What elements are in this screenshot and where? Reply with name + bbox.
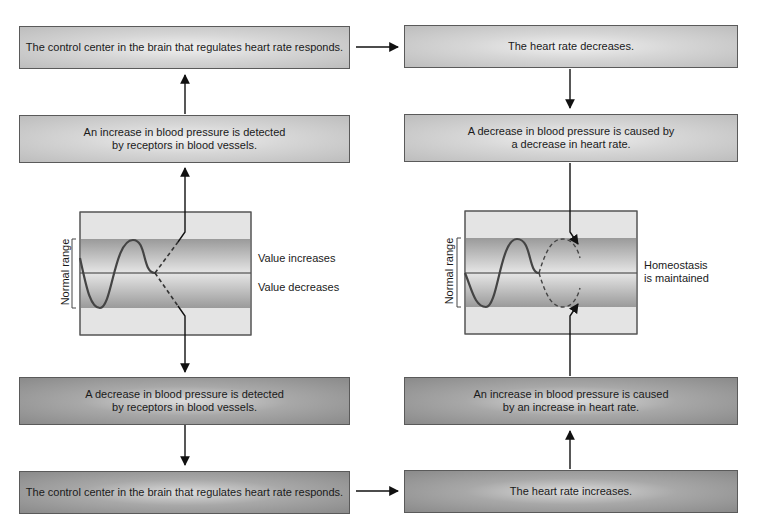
left-normal-range-label: Normal range	[59, 237, 71, 307]
right-graph	[457, 163, 637, 376]
homeostasis-label-line2: is maintained	[644, 272, 709, 285]
homeostasis-label-line1: Homeostasis	[644, 259, 709, 272]
right-normal-range-label: Normal range	[443, 236, 455, 306]
left-graph	[72, 168, 251, 372]
homeostasis-label: Homeostasis is maintained	[644, 259, 709, 285]
value-decreases-label: Value decreases	[258, 281, 339, 294]
value-increases-label: Value increases	[258, 252, 335, 265]
